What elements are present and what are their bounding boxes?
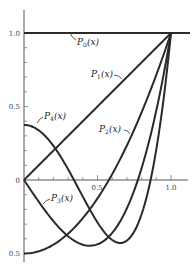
curve-p3 (24, 33, 171, 246)
x-tick-label-1: 1.0 (165, 184, 176, 192)
y-ticks (24, 33, 28, 254)
legendre-chart: 1.0 0.5 0 0.5 0.5 1.0 P0(x) P1(x) P4(x) … (0, 0, 196, 273)
label-p4: P4(x) (43, 111, 66, 122)
y-tick-label-1: 1.0 (9, 30, 20, 38)
label-p3: P3(x) (50, 193, 73, 204)
leader-p3 (43, 199, 50, 204)
label-p1: P1(x) (90, 69, 113, 80)
leader-p2 (124, 130, 130, 134)
leader-p0 (70, 33, 76, 40)
leader-p1 (114, 75, 122, 79)
label-p0: P0(x) (76, 37, 99, 48)
label-p2: P2(x) (98, 124, 121, 135)
y-tick-label-neg05: 0.5 (9, 250, 20, 258)
y-tick-label-0: 0 (16, 177, 20, 185)
curve-p1 (24, 33, 171, 180)
x-tick-label-05: 0.5 (91, 184, 102, 192)
y-tick-label-05: 0.5 (9, 103, 20, 111)
leader-p4 (37, 117, 43, 123)
